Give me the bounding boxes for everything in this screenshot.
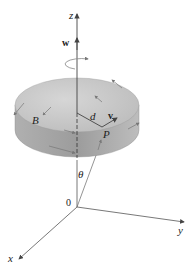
- point-p-label: P: [102, 128, 110, 140]
- x-axis: [19, 207, 77, 259]
- velocity-label: v: [108, 110, 113, 121]
- y-axis: [77, 207, 184, 222]
- point-b-label: B: [32, 114, 39, 126]
- rotating-disk-diagram: z w B d v P θ 0 y x: [0, 0, 191, 274]
- z-axis-label: z: [68, 9, 74, 21]
- y-axis-label: y: [177, 224, 183, 236]
- distance-label: d: [90, 110, 96, 122]
- angular-velocity-label: w: [62, 37, 70, 48]
- angle-theta-label: θ: [78, 168, 84, 180]
- x-axis-label: x: [7, 252, 13, 264]
- origin-label: 0: [66, 197, 71, 208]
